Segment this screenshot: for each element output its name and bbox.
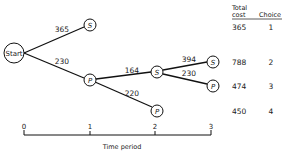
row-3-choice: 3: [269, 82, 274, 91]
start-label: Start: [5, 50, 22, 58]
row-1-cost: 365: [232, 23, 247, 32]
edge-label-s2-p3: 230: [182, 69, 197, 78]
edge-label-start-s1: 365: [55, 25, 70, 34]
tick-label-2: 2: [153, 123, 157, 131]
edge-label-s2-s3: 394: [182, 55, 197, 64]
decision-tree-diagram: Start S P S S P P 365 230 164 220 394 23…: [0, 0, 285, 159]
row-4-choice: 4: [269, 107, 274, 116]
node-s2-label: S: [155, 69, 160, 77]
edge-p1-p2: [95, 82, 152, 107]
row-3-cost: 474: [232, 82, 247, 91]
node-s3-label: S: [211, 59, 216, 67]
edge-label-p1-p2: 220: [125, 89, 140, 98]
tick-label-1: 1: [88, 123, 92, 131]
table-header-cost: cost: [232, 11, 246, 19]
edge-p1-s2: [96, 72, 151, 79]
row-1-choice: 1: [269, 23, 274, 32]
node-s1-label: S: [88, 22, 93, 30]
row-2-choice: 2: [269, 58, 274, 67]
row-4-cost: 450: [232, 107, 247, 116]
tick-label-0: 0: [22, 123, 26, 131]
row-2-cost: 788: [232, 58, 247, 67]
edge-label-p1-s2: 164: [125, 66, 140, 75]
table-header-choice: Choice: [259, 11, 281, 19]
axis-label: Time period: [102, 143, 142, 151]
edge-label-start-p1: 230: [55, 57, 70, 66]
tick-label-3: 3: [209, 123, 213, 131]
